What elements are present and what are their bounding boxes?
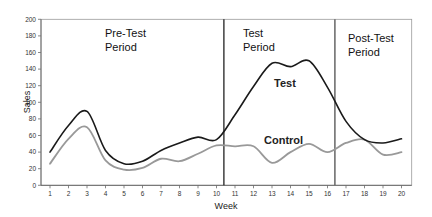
y-axis-title: Sales	[22, 90, 32, 113]
test-period-label: Test	[243, 27, 263, 39]
y-tick-label: 40	[29, 148, 37, 155]
y-tick-label: 160	[25, 49, 36, 56]
x-tick-label: 10	[213, 190, 221, 197]
y-tick-label: 120	[25, 82, 36, 89]
test-series-label: Test	[274, 77, 296, 89]
x-tick-label: 19	[379, 190, 387, 197]
x-tick-label: 14	[287, 190, 295, 197]
x-tick-label: 5	[122, 190, 126, 197]
plot-area-border	[41, 19, 412, 185]
x-tick-label: 16	[324, 190, 332, 197]
x-axis-title: Week	[215, 201, 238, 211]
test-series-line	[50, 60, 402, 164]
x-tick-label: 15	[305, 190, 313, 197]
x-tick-label: 9	[196, 190, 200, 197]
sales-line-chart: 020406080100120140160180200 123456789101…	[0, 0, 432, 217]
x-tick-label: 13	[268, 190, 276, 197]
x-tick-label: 17	[342, 190, 350, 197]
x-tick-label: 6	[141, 190, 145, 197]
y-tick-label: 200	[25, 16, 36, 23]
control-series-label: Control	[264, 134, 303, 146]
y-tick-label: 20	[29, 165, 37, 172]
pre-test-period-label-line2: Period	[105, 41, 137, 53]
control-series-line	[50, 126, 402, 170]
x-tick-label: 3	[85, 190, 89, 197]
y-tick-label: 80	[29, 115, 37, 122]
x-tick-label: 2	[67, 190, 71, 197]
y-tick-label: 0	[32, 182, 36, 189]
post-test-period-label-line2: Period	[348, 46, 380, 58]
x-tick-label: 18	[361, 190, 369, 197]
x-tick-label: 7	[159, 190, 163, 197]
x-tick-label: 1	[48, 190, 52, 197]
x-tick-label: 20	[398, 190, 406, 197]
pre-test-period-label: Pre-Test	[105, 27, 146, 39]
test-period-label-line2: Period	[243, 41, 275, 53]
y-tick-label: 60	[29, 132, 37, 139]
x-tick-label: 11	[232, 190, 239, 197]
y-tick-label: 180	[25, 32, 36, 39]
x-tick-label: 4	[104, 190, 108, 197]
x-axis-ticks: 1234567891011121314151617181920	[48, 185, 405, 196]
y-tick-label: 140	[25, 65, 36, 72]
x-tick-label: 12	[250, 190, 258, 197]
x-tick-label: 8	[178, 190, 182, 197]
post-test-period-label: Post-Test	[348, 32, 394, 44]
